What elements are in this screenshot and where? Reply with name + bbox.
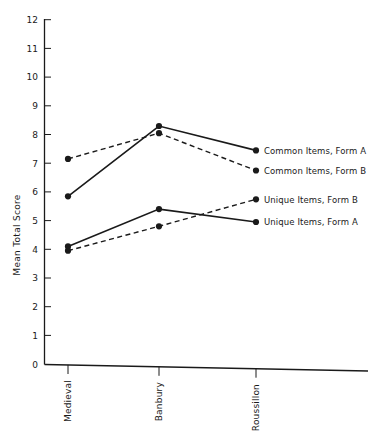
data-point-unique-a-banbury	[156, 206, 162, 212]
y-tick-label-6: 6	[32, 187, 38, 197]
y-tick-label-7: 7	[32, 159, 38, 169]
y-tick-label-8: 8	[32, 130, 38, 140]
series-line-common-a	[68, 126, 256, 196]
y-axis-ticks	[45, 20, 52, 336]
x-label-banbury: Banbury	[154, 382, 164, 422]
data-point-common-b-roussillon	[253, 167, 259, 173]
y-tick-label-0: 0	[32, 360, 38, 370]
y-axis-tick-labels: 12 11 10 9 8 7 6 5 4 3 2 1 0	[27, 15, 39, 370]
y-tick-label-5: 5	[32, 216, 38, 226]
series-unique-items-form-b	[65, 196, 259, 254]
data-point-common-a-medieval	[65, 193, 71, 199]
y-tick-label-11: 11	[27, 44, 38, 54]
legend: Common Items, Form A Common Items, Form …	[264, 146, 366, 228]
data-point-unique-b-roussillon	[253, 196, 259, 202]
series-unique-items-form-a	[65, 206, 259, 249]
data-point-common-b-medieval	[65, 156, 71, 162]
legend-label-common-items-form-a: Common Items, Form A	[264, 146, 366, 156]
series-line-common-b	[68, 133, 256, 170]
y-tick-label-2: 2	[32, 302, 38, 312]
series-line-unique-b	[68, 199, 256, 250]
y-tick-label-3: 3	[32, 273, 38, 283]
y-axis-title: Mean Total Score	[12, 194, 22, 275]
legend-label-unique-items-form-b: Unique Items, Form B	[264, 195, 358, 205]
x-axis-line	[45, 365, 369, 372]
line-chart: 12 11 10 9 8 7 6 5 4 3 2 1 0 Mean Total …	[0, 0, 375, 433]
legend-label-unique-items-form-a: Unique Items, Form A	[264, 217, 358, 227]
y-tick-label-4: 4	[32, 245, 38, 255]
data-point-common-b-banbury	[156, 130, 162, 136]
x-label-medieval: Medieval	[63, 380, 73, 422]
data-point-common-a-banbury	[156, 123, 162, 129]
x-label-roussillon: Roussillon	[251, 384, 261, 431]
y-tick-label-10: 10	[27, 72, 39, 82]
chart-figure: 12 11 10 9 8 7 6 5 4 3 2 1 0 Mean Total …	[0, 0, 375, 433]
data-point-common-a-roussillon	[253, 147, 259, 153]
y-tick-label-9: 9	[32, 101, 38, 111]
x-axis-category-labels: Medieval Banbury Roussillon	[63, 380, 261, 431]
series-common-items-form-b	[65, 130, 259, 174]
y-tick-label-1: 1	[32, 331, 38, 341]
data-point-unique-b-banbury	[156, 223, 162, 229]
legend-label-common-items-form-b: Common Items, Form B	[264, 166, 366, 176]
series-line-unique-a	[68, 209, 256, 246]
y-tick-label-12: 12	[27, 15, 38, 25]
data-point-unique-a-roussillon	[253, 219, 259, 225]
data-point-unique-a-medieval	[65, 243, 71, 249]
